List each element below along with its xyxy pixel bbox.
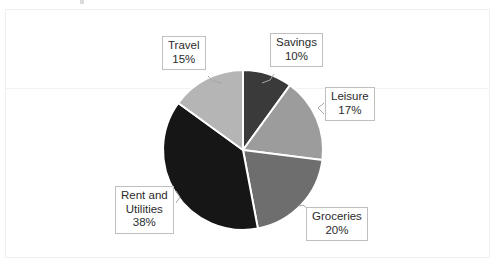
data-label-savings-value: 10%	[276, 50, 317, 64]
pie-graphic	[0, 0, 496, 264]
data-label-rent-name-line2: Utilities	[121, 203, 168, 217]
leader-line-leisure	[318, 103, 324, 114]
data-label-leisure-value: 17%	[331, 104, 369, 118]
data-label-travel[interactable]: Travel 15%	[162, 36, 206, 70]
data-label-groceries[interactable]: Groceries 20%	[306, 207, 368, 241]
data-label-groceries-name: Groceries	[312, 210, 362, 224]
data-label-rent-value: 38%	[121, 216, 168, 230]
data-label-rent-name-line1: Rent and	[121, 189, 168, 203]
data-label-rent-and-utilities[interactable]: Rent and Utilities 38%	[115, 186, 174, 234]
data-label-savings-name: Savings	[276, 36, 317, 50]
pie-chart-container: Travel 15% Savings 10% Leisure 17% Groce…	[0, 0, 496, 264]
data-label-leisure[interactable]: Leisure 17%	[325, 87, 375, 121]
data-label-travel-name: Travel	[168, 39, 200, 53]
data-label-groceries-value: 20%	[312, 224, 362, 238]
data-label-savings[interactable]: Savings 10%	[270, 33, 323, 67]
data-label-leisure-name: Leisure	[331, 90, 369, 104]
data-label-travel-value: 15%	[168, 53, 200, 67]
